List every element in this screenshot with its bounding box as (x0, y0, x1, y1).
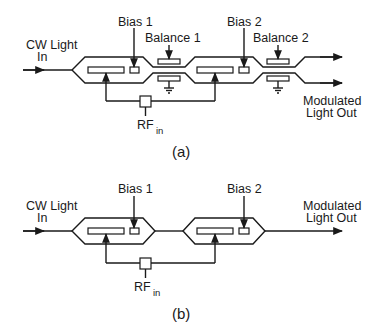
rf-input-port (140, 96, 151, 107)
rf-electrode-1 (88, 67, 124, 73)
rf-label: RF (134, 280, 151, 294)
rf-electrode-2 (197, 67, 233, 73)
balance2-electrode-bottom (267, 76, 289, 81)
rf-label: RF (137, 118, 154, 132)
balance1-electrode-top (158, 59, 180, 64)
rf-electrode-1 (88, 228, 124, 234)
output-label-line2: Light Out (306, 106, 357, 120)
input-label-line1: CW Light (26, 199, 78, 213)
rf-electrode-2 (197, 228, 233, 234)
bias1-electrode (130, 67, 139, 73)
ground-icon (164, 81, 174, 93)
bias2-electrode (239, 67, 249, 73)
bias2-label: Bias 2 (227, 182, 262, 196)
ground-icon (273, 81, 283, 93)
balance1-label: Balance 1 (145, 31, 201, 45)
caption-b: (b) (172, 305, 190, 322)
balance1-electrode-bottom (158, 76, 180, 81)
bias2-electrode (239, 228, 249, 234)
rf-subscript: in (153, 287, 160, 298)
figure-b: CW Light In Bias 1 Bias 2 Modulated Ligh… (23, 182, 361, 322)
bias1-electrode (130, 228, 139, 234)
modulator-diagram: CW Light In Bias 1 Bias 2 Balance 1 Bala… (0, 0, 374, 333)
input-label-line2: In (37, 50, 47, 64)
balance2-electrode-top (267, 59, 289, 64)
output-label-line2: Light Out (306, 211, 357, 225)
bias1-label: Bias 1 (118, 15, 153, 29)
input-label-line1: CW Light (26, 38, 78, 52)
caption-a: (a) (172, 143, 190, 160)
bias1-label: Bias 1 (118, 182, 153, 196)
input-label-line2: In (37, 211, 47, 225)
balance2-label: Balance 2 (253, 31, 309, 45)
rf-subscript: in (156, 125, 163, 136)
bias2-label: Bias 2 (227, 15, 262, 29)
rf-input-port (140, 258, 151, 269)
figure-a: CW Light In Bias 1 Bias 2 Balance 1 Bala… (23, 15, 361, 160)
